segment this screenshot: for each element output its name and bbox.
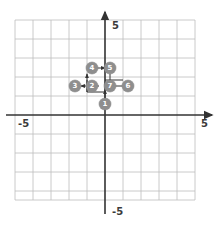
axis-label-x-left: -5	[18, 119, 29, 129]
plot-marker-1[interactable]: 1	[99, 98, 111, 110]
coordinate-plot-figure: 5 -5 -5 5 1 2 3 4 5 6 7	[0, 0, 219, 233]
axis-label-y-bottom: -5	[112, 207, 123, 217]
plot-marker-6[interactable]: 6	[122, 80, 134, 92]
axis-label-x-right: 5	[201, 119, 208, 129]
axis-label-y-top: 5	[112, 21, 119, 31]
plot-canvas	[0, 0, 219, 233]
plot-marker-4[interactable]: 4	[86, 62, 98, 74]
plot-marker-7[interactable]: 7	[104, 80, 116, 92]
plot-marker-2[interactable]: 2	[86, 80, 98, 92]
plot-marker-5[interactable]: 5	[104, 62, 116, 74]
plot-marker-3[interactable]: 3	[69, 80, 81, 92]
